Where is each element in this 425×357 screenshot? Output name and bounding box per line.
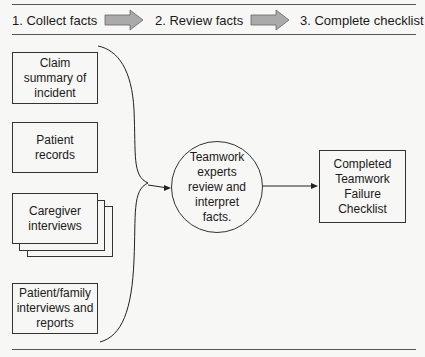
grouping-brace [98, 46, 148, 342]
input-patient-records: Patient records [12, 122, 98, 173]
input-label: Patient records [35, 133, 75, 163]
output-label: Completed Teamwork Failure Checklist [333, 157, 391, 217]
block-arrow-icon [251, 10, 289, 30]
process-review-circle: Teamwork experts review and interpret fa… [171, 141, 263, 233]
input-label: Claim summary of incident [24, 56, 87, 101]
arrowhead-icon [164, 185, 171, 191]
process-label: Teamwork experts review and interpret fa… [188, 150, 246, 225]
output-completed-checklist: Completed Teamwork Failure Checklist [319, 150, 406, 223]
block-arrow-icon [105, 10, 143, 30]
input-patient-family-interviews: Patient/family interviews and reports [12, 283, 98, 334]
input-label: Caregiver interviews [28, 204, 81, 234]
input-caregiver-interviews: Caregiver interviews [12, 193, 98, 244]
arrowhead-icon [311, 183, 318, 189]
input-claim-summary: Claim summary of incident [12, 52, 98, 104]
input-label: Patient/family interviews and reports [17, 286, 94, 331]
